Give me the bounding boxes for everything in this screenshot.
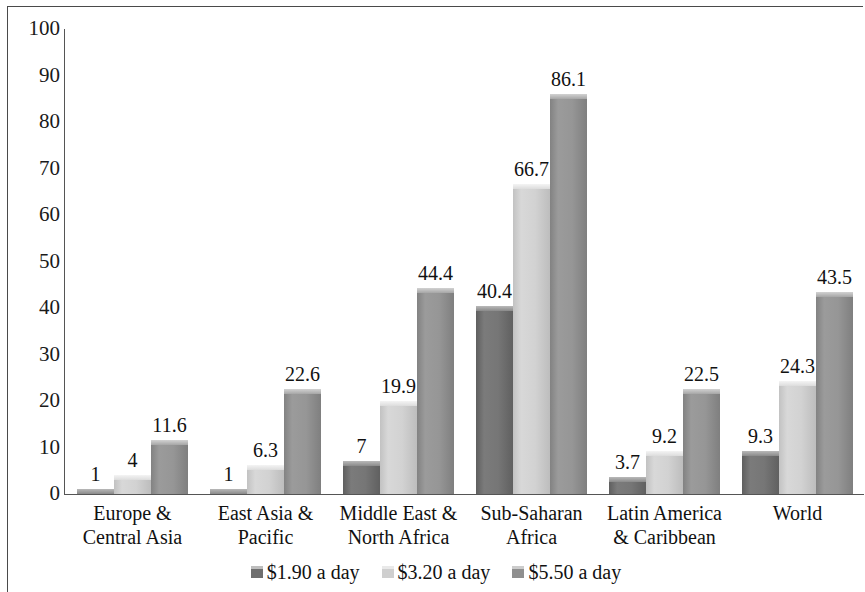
bar-slot: 9.3 [742,29,779,494]
bar-group: 1411.6 [66,29,199,494]
bar-slot: 66.7 [513,29,550,494]
bar-top-highlight [210,489,247,494]
bar-top-highlight [77,489,114,494]
bar[interactable]: 19.9 [380,401,417,494]
category-label-line: Middle East & [332,501,465,525]
category-label-line: & Caribbean [598,525,731,549]
bar-top-highlight [417,288,454,293]
bar[interactable]: 7 [343,461,380,494]
bar[interactable]: 44.4 [417,288,454,494]
bar-top-highlight [247,465,284,470]
legend-label: $1.90 a day [267,562,360,582]
bar[interactable]: 6.3 [247,465,284,494]
legend-swatch-icon [382,566,394,578]
category-label-line: Africa [465,525,598,549]
bar-value-label: 1 [224,464,234,484]
category-label: Europe &Central Asia [66,501,199,549]
bar[interactable]: 3.7 [609,477,646,494]
y-axis-tick-labels: 1009080706050403020100 [8,7,60,592]
bar-groups: 1411.616.322.6719.944.440.466.786.13.79.… [66,29,864,494]
category-label-line: World [731,501,864,525]
bar-value-label: 66.7 [514,159,549,179]
bar-slot: 11.6 [151,29,188,494]
bar-slot: 9.2 [646,29,683,494]
bar-top-highlight [683,389,720,394]
bar[interactable]: 66.7 [513,184,550,494]
bar-slot: 4 [114,29,151,494]
bar-top-highlight [550,94,587,99]
category-label-line: Pacific [199,525,332,549]
bar[interactable]: 9.2 [646,451,683,494]
bar-value-label: 43.5 [817,267,852,287]
x-axis-line [64,494,864,495]
bar[interactable]: 4 [114,475,151,494]
y-tick-label: 40 [16,297,60,318]
bar[interactable]: 86.1 [550,94,587,494]
bar-top-highlight [742,451,779,456]
bar-group: 3.79.222.5 [598,29,731,494]
y-tick-label: 10 [16,437,60,458]
y-tick-label: 80 [16,111,60,132]
bar-value-label: 3.7 [615,452,640,472]
bar-slot: 19.9 [380,29,417,494]
y-tick-label: 60 [16,204,60,225]
legend-swatch-icon [251,566,263,578]
bar-slot: 24.3 [779,29,816,494]
bar-top-highlight [779,381,816,386]
y-tick-label: 100 [16,18,60,39]
legend-item[interactable]: $1.90 a day [251,562,360,582]
bar-slot: 43.5 [816,29,853,494]
bar[interactable]: 1 [210,489,247,494]
bar-value-label: 19.9 [381,376,416,396]
bar-value-label: 22.5 [684,364,719,384]
bar-value-label: 11.6 [152,415,186,435]
bar[interactable]: 22.6 [284,389,321,494]
category-label: World [731,501,864,549]
bar-value-label: 9.3 [748,426,773,446]
bar-top-highlight [646,451,683,456]
y-tick-label: 30 [16,344,60,365]
legend-item[interactable]: $5.50 a day [512,562,621,582]
bar[interactable]: 11.6 [151,440,188,494]
bar-value-label: 22.6 [285,364,320,384]
bar-group: 40.466.786.1 [465,29,598,494]
bar[interactable]: 1 [77,489,114,494]
bar-slot: 22.6 [284,29,321,494]
bar-top-highlight [513,184,550,189]
bar[interactable]: 43.5 [816,292,853,494]
bar-value-label: 6.3 [253,440,278,460]
bar[interactable]: 40.4 [476,306,513,494]
bar-value-label: 9.2 [652,426,677,446]
bar-slot: 1 [210,29,247,494]
bar-value-label: 1 [91,464,101,484]
bar-top-highlight [476,306,513,311]
bar[interactable]: 9.3 [742,451,779,494]
bar-value-label: 40.4 [477,281,512,301]
legend-swatch-icon [512,566,524,578]
legend-item[interactable]: $3.20 a day [382,562,491,582]
category-label: Sub-SaharanAfrica [465,501,598,549]
bar-group: 719.944.4 [332,29,465,494]
category-label-line: Central Asia [66,525,199,549]
category-label-line: Latin America [598,501,731,525]
bar-slot: 6.3 [247,29,284,494]
y-tick-label: 90 [16,65,60,86]
bar-value-label: 4 [128,450,138,470]
bar-slot: 7 [343,29,380,494]
legend-label: $3.20 a day [398,562,491,582]
category-label: Latin America& Caribbean [598,501,731,549]
bar[interactable]: 24.3 [779,381,816,494]
bar-slot: 22.5 [683,29,720,494]
category-label-line: North Africa [332,525,465,549]
bar-group: 9.324.343.5 [731,29,864,494]
bar[interactable]: 22.5 [683,389,720,494]
bar-group: 16.322.6 [199,29,332,494]
category-label: East Asia &Pacific [199,501,332,549]
chart-legend: $1.90 a day$3.20 a day$5.50 a day [8,562,864,582]
bar-top-highlight [151,440,188,445]
y-tick-label: 70 [16,158,60,179]
bar-value-label: 86.1 [551,69,586,89]
bar-top-highlight [114,475,151,480]
category-label-line: Europe & [66,501,199,525]
bar-slot: 44.4 [417,29,454,494]
